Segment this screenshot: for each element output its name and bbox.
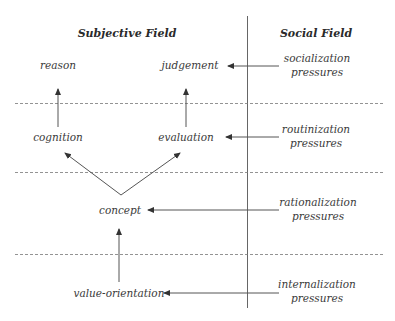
pressure-line2: pressures xyxy=(279,209,356,223)
node-cognition: cognition xyxy=(33,130,83,144)
edge-concept-evaluation xyxy=(121,153,180,195)
pressure-line2: pressures xyxy=(278,291,356,305)
internalization-pressures-label: internalization pressures xyxy=(278,277,356,305)
node-value-orientation: value-orientation xyxy=(74,286,165,300)
rationalization-pressures-label: rationalization pressures xyxy=(279,195,356,223)
node-evaluation: evaluation xyxy=(158,130,213,144)
node-reason: reason xyxy=(40,58,76,72)
diagram-canvas: Subjective Field Social Field reason jud… xyxy=(0,0,395,321)
node-judgement: judgement xyxy=(162,58,219,72)
diagram-lines xyxy=(0,0,395,321)
pressure-line1: socialization xyxy=(284,51,350,65)
pressure-line2: pressures xyxy=(284,65,350,79)
edge-concept-cognition xyxy=(65,153,121,195)
socialization-pressures-label: socialization pressures xyxy=(284,51,350,79)
pressure-line1: routinization xyxy=(282,122,350,136)
social-field-heading: Social Field xyxy=(280,27,352,41)
pressure-line1: rationalization xyxy=(279,195,356,209)
subjective-field-heading: Subjective Field xyxy=(78,27,177,41)
node-concept: concept xyxy=(99,203,141,217)
pressure-line1: internalization xyxy=(278,277,356,291)
routinization-pressures-label: routinization pressures xyxy=(282,122,350,150)
pressure-line2: pressures xyxy=(282,136,350,150)
